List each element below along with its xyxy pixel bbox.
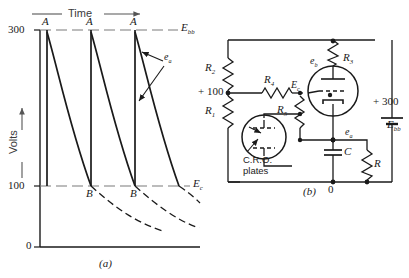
reference-label-ec: Ec [193,178,203,192]
point-label-b-2: B [130,188,137,199]
label-r3: R3 [343,52,353,66]
discharge-continuation-curves [91,186,200,231]
resistor-r2 [223,58,233,90]
point-label-a-3: A [130,16,137,27]
chart-ylabel: Volts [8,130,19,154]
label-c: C [344,146,351,157]
annotation-ea-chart: ea [164,52,172,64]
panel-b-caption: (b) [303,186,316,197]
label-eb: eb [310,56,318,68]
reference-label-ebb: Ebb [181,22,195,36]
label-r: R [374,158,381,169]
y-tick-0: 0 [26,240,32,251]
chart-axes [34,30,200,247]
label-plus-300: + 300 [373,96,398,107]
label-r2: R2 [205,62,215,76]
label-r5: R5 [277,104,287,118]
label-plus-100: + 100 [198,86,223,97]
label-cro-line1: C.R.O. [243,155,272,165]
y-tick-300: 300 [8,24,25,35]
point-label-a-2: A [86,16,93,27]
resistor-r [362,150,372,180]
resistor-r1 [223,96,233,128]
panel-a-caption: (a) [99,258,112,269]
label-ec-circuit: Ec [291,80,300,92]
sawtooth-flybacks [47,30,135,186]
y-tick-100: 100 [8,180,25,191]
sawtooth-ramps [47,32,179,186]
capacitor-c [324,150,342,155]
resistor-r3 [328,40,338,66]
label-r1: R1 [205,105,215,119]
label-ebb-circuit: Ebb [387,119,401,133]
label-ea-circuit: ea [345,127,353,139]
point-label-b-1: B [86,188,93,199]
resistor-r4 [262,88,292,98]
point-label-a-1: A [42,16,49,27]
label-node-zero: 0 [328,184,334,195]
figure-container: Time Volts 300 100 0 A A A B B Ebb Ec ea… [0,0,409,278]
label-r4: R4 [264,74,274,88]
label-cro-line2: plates [243,166,268,176]
